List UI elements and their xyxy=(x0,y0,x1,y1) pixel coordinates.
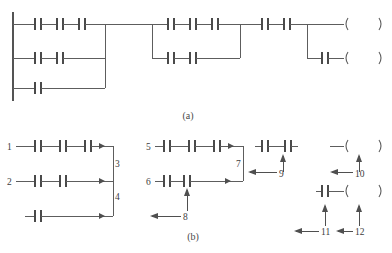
svg-text:8: 8 xyxy=(183,212,188,222)
svg-text:12: 12 xyxy=(355,227,365,237)
caption-b: (b) xyxy=(187,231,199,243)
b-group-1-row-1 xyxy=(16,140,113,152)
b-group-3-row-1 xyxy=(255,140,298,152)
label-4: 4 xyxy=(115,192,120,202)
caption-a: (a) xyxy=(182,110,193,122)
arrow-9: 9 xyxy=(248,154,286,179)
label-7: 7 xyxy=(236,159,241,169)
svg-text:10: 10 xyxy=(355,169,365,179)
group-1-row-3 xyxy=(13,82,105,94)
b-coil-top xyxy=(330,140,381,152)
label-6: 6 xyxy=(146,177,151,187)
ladder-diagram-figure: ‥‥‥ ‥‥ ‥‥‥ xyxy=(0,0,392,253)
b-group-3-row-2 xyxy=(316,185,381,197)
svg-text:9: 9 xyxy=(279,169,284,179)
group-2-row-2 xyxy=(152,52,240,64)
group-3-row-1 xyxy=(240,18,344,30)
group-1-row-1 xyxy=(13,18,105,30)
b-group-1-row-3 xyxy=(25,210,113,222)
arrow-8: 8 xyxy=(150,188,190,222)
coil-bottom xyxy=(346,52,381,64)
b-group-2-row-2 xyxy=(155,175,243,187)
group-2-row-1 xyxy=(152,18,240,30)
arrow-10: 10 xyxy=(330,154,365,179)
label-5: 5 xyxy=(146,142,151,152)
svg-text:11: 11 xyxy=(321,227,330,237)
coil-top xyxy=(346,18,381,30)
label-2: 2 xyxy=(7,177,12,187)
diagram-b: 1 2 xyxy=(7,140,381,243)
arrow-11: 11 xyxy=(294,204,330,237)
label-1: 1 xyxy=(7,142,12,152)
b-group-1-row-2 xyxy=(16,175,113,187)
arrow-12: 12 xyxy=(336,204,365,237)
ladder-svg-canvas: (a) 1 2 xyxy=(0,0,392,253)
diagram-a: (a) xyxy=(13,12,381,122)
group-1-row-2 xyxy=(13,52,105,64)
b-group-2-row-1 xyxy=(155,140,243,152)
label-3: 3 xyxy=(115,159,120,169)
group-3-row-2 xyxy=(307,52,344,64)
